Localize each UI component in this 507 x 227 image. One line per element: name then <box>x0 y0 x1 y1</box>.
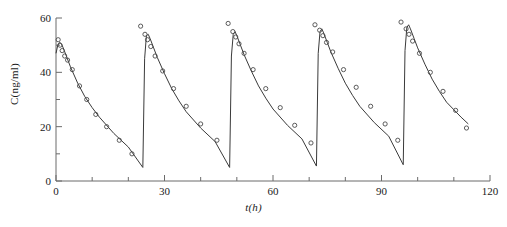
tick-label-layer: 03060901200204060 <box>40 12 499 197</box>
x-axis-label-text: t(h) <box>245 201 262 213</box>
observed-markers-layer <box>56 20 469 156</box>
x-axis-label: t(h) <box>0 201 507 213</box>
data-point-marker <box>60 49 64 53</box>
y-tick-label: 20 <box>40 121 52 133</box>
data-point-marker <box>399 20 403 24</box>
y-tick-label: 60 <box>40 12 52 24</box>
data-point-marker <box>226 21 230 25</box>
data-point-marker <box>199 122 203 126</box>
x-tick-label: 0 <box>53 185 59 197</box>
data-point-marker <box>464 126 468 130</box>
data-point-marker <box>369 104 373 108</box>
data-point-marker <box>396 138 400 142</box>
data-point-marker <box>143 32 147 36</box>
x-tick-label: 120 <box>482 185 499 197</box>
y-tick-label: 40 <box>40 66 52 78</box>
data-point-marker <box>313 23 317 27</box>
data-point-marker <box>354 85 358 89</box>
y-tick-label: 0 <box>46 175 52 187</box>
data-point-marker <box>404 27 408 31</box>
data-point-marker <box>231 29 235 33</box>
data-point-marker <box>251 68 255 72</box>
data-point-marker <box>293 123 297 127</box>
x-tick-label: 60 <box>268 185 280 197</box>
x-tick-label: 90 <box>376 185 388 197</box>
data-point-marker <box>139 24 143 28</box>
data-point-marker <box>184 104 188 108</box>
figure: C(ng/ml) 03060901200204060 t(h) <box>0 0 507 227</box>
data-point-marker <box>309 141 313 145</box>
fitted-curve <box>56 25 468 168</box>
data-point-marker <box>441 89 445 93</box>
x-tick-label: 30 <box>159 185 171 197</box>
data-point-marker <box>411 39 415 43</box>
data-point-marker <box>278 106 282 110</box>
plot-canvas: 03060901200204060 <box>0 0 507 227</box>
data-point-marker <box>215 138 219 142</box>
axis-layer <box>56 18 490 181</box>
data-point-marker <box>149 44 153 48</box>
data-point-marker <box>383 122 387 126</box>
data-point-marker <box>264 87 268 91</box>
fitted-curve-layer <box>56 25 468 168</box>
data-point-marker <box>407 32 411 36</box>
data-point-marker <box>341 68 345 72</box>
data-point-marker <box>56 38 60 42</box>
